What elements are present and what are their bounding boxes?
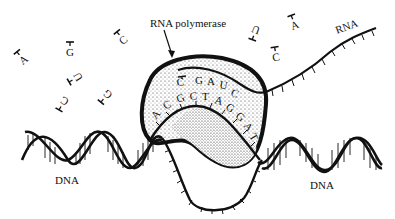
- free-nucleotide: G: [98, 87, 114, 104]
- free-nucleotide: G: [66, 42, 74, 58]
- free-nucleotide: A: [14, 49, 30, 66]
- svg-text:C: C: [116, 33, 129, 47]
- rna-label: RNA: [334, 17, 360, 36]
- dna-base: T: [202, 90, 209, 102]
- svg-text:G: G: [66, 46, 74, 58]
- free-nucleotide: C: [56, 94, 71, 112]
- free-nucleotide: C: [114, 29, 130, 46]
- svg-text:G: G: [100, 87, 114, 101]
- dna-base: C: [189, 89, 197, 102]
- dna-right-label: DNA: [310, 179, 334, 191]
- rna-base: G: [195, 74, 203, 86]
- dna-left-helix: [22, 132, 162, 168]
- svg-text:C: C: [271, 50, 280, 63]
- transcription-diagram: C G A U C A C G C T A G G A T A G C: [0, 0, 395, 219]
- svg-text:U: U: [71, 71, 85, 84]
- svg-text:U: U: [250, 23, 262, 37]
- svg-text:A: A: [16, 52, 30, 66]
- svg-text:C: C: [58, 94, 70, 108]
- polymerase-pointer-arrow: [164, 30, 175, 58]
- free-nucleotide: U: [67, 71, 85, 86]
- free-nucleotide: C: [271, 46, 282, 63]
- rna-polymerase-label: RNA polymerase: [150, 17, 226, 29]
- rna-polymerase-blob: [142, 56, 266, 166]
- rna-base: A: [207, 75, 215, 87]
- dna-right-helix: [258, 138, 382, 172]
- free-nucleotide: A: [288, 14, 301, 32]
- free-nucleotide: U: [249, 23, 262, 41]
- dna-left-label: DNA: [55, 174, 79, 186]
- svg-text:A: A: [289, 18, 301, 32]
- diagram-canvas: C G A U C A C G C T A G G A T A G C: [0, 0, 395, 219]
